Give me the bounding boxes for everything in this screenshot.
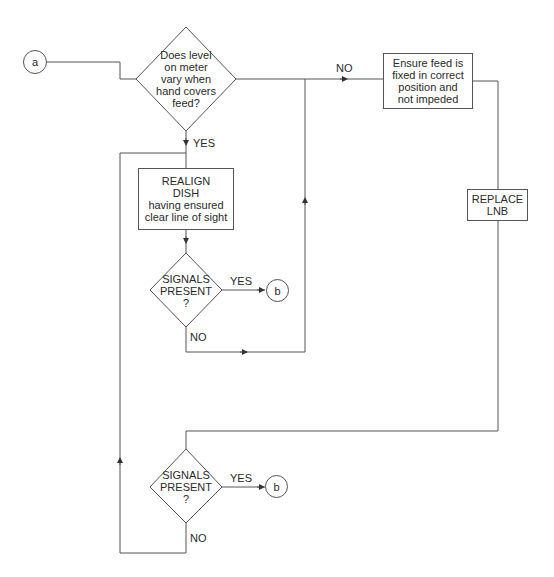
edge-label-signals1-yes: YES [230,275,252,287]
process-ensure-feed: Ensure feed is fixed in correct position… [383,53,473,109]
connector-a: a [23,50,47,74]
edge-label-signals2-no: NO [190,532,207,544]
process-replace-lnb: REPLACE LNB [467,189,528,221]
connector-a-label: a [32,56,38,68]
edge-a-to-decision [47,62,136,79]
connector-b-2-label: b [273,481,279,493]
process-realign-dish-text: having ensured clear line of sight [145,199,228,223]
process-ensure-feed-text: Ensure feed is fixed in correct position… [392,57,464,105]
edge-label-signals1-no: NO [190,331,207,343]
decision-signals-present-1-text: SIGNALS PRESENT ? [160,273,212,309]
edge-label-signals2-yes: YES [230,472,252,484]
connector-b-1: b [266,279,289,302]
decision-level-varies-text: Does level on meter vary when hand cover… [156,49,216,109]
decision-signals-present-1: SIGNALS PRESENT ? [152,272,220,310]
process-realign-dish-title: REALIGN DISH [162,175,210,199]
decision-level-varies: Does level on meter vary when hand cover… [146,45,226,113]
process-realign-dish: REALIGN DISH having ensured clear line o… [138,168,234,230]
decision-signals-present-2-text: SIGNALS PRESENT ? [160,469,212,505]
connector-b-2: b [265,475,288,498]
process-replace-lnb-text: REPLACE LNB [472,193,523,217]
connector-b-1-label: b [274,285,280,297]
edge-label-level-no: NO [336,62,353,74]
decision-signals-present-2: SIGNALS PRESENT ? [152,468,220,506]
edge-label-level-yes: YES [193,137,215,149]
